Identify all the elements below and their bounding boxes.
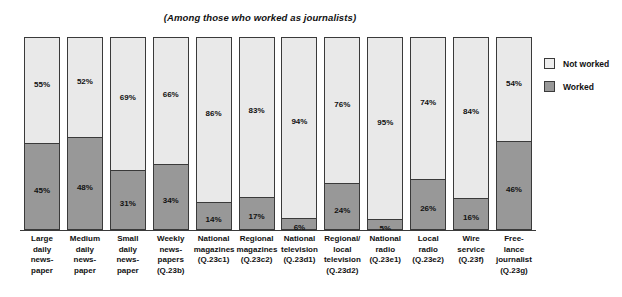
bar-segment-not-worked: 54% — [497, 38, 531, 141]
x-axis-label: Mediumdailynews-paper — [65, 234, 105, 276]
x-axis-label-line: papers — [151, 255, 191, 266]
bar-column: 66%34% — [153, 37, 189, 230]
legend-swatch-icon — [544, 58, 555, 69]
bar-segment-label: 5% — [379, 225, 391, 233]
x-axis-label-line: paper — [65, 266, 105, 277]
x-axis-label-line: (Q.23f) — [451, 255, 491, 266]
bar-segment-label: 52% — [77, 78, 93, 86]
bar-segment-label: 16% — [463, 214, 479, 222]
x-axis-label: Nationalmagazines(Q.23c1) — [194, 234, 234, 266]
bar-segment-not-worked: 84% — [454, 38, 488, 198]
x-axis-label-line: daily — [22, 245, 62, 256]
bar-segment-label: 95% — [377, 119, 393, 127]
x-axis-label-line: (Q.23e2) — [408, 255, 448, 266]
bar-segment-label: 17% — [249, 213, 265, 221]
bar-column: 84%16% — [453, 37, 489, 230]
x-axis-label-line: paper — [108, 266, 148, 277]
bar-segment-worked: 14% — [197, 202, 231, 229]
bar-column: 54%46% — [496, 37, 532, 230]
x-axis-label: Nationaltelevision(Q.23d1) — [279, 234, 319, 266]
bar-segment-label: 66% — [163, 91, 179, 99]
bar-segment-not-worked: 52% — [68, 38, 102, 137]
bar-segment-worked: 24% — [325, 183, 359, 229]
bar-column: 55%45% — [24, 37, 60, 230]
bar-segment-label: 14% — [206, 216, 222, 224]
bar-segment-label: 54% — [506, 80, 522, 88]
bar-segment-worked: 17% — [240, 197, 274, 229]
x-axis-label-line: daily — [108, 245, 148, 256]
x-axis-label-line: Wire — [451, 234, 491, 245]
x-axis-label-line: news- — [22, 255, 62, 266]
bar-segment-label: 26% — [420, 205, 436, 213]
x-axis-label: Free-lancejournalist(Q.23g) — [494, 234, 534, 276]
x-axis-labels: Largedailynews-paperMediumdailynews-pape… — [24, 234, 532, 276]
x-axis-label: Nationalradio(Q.23e1) — [365, 234, 405, 266]
x-axis-label-line: television — [322, 255, 362, 266]
x-axis-label-line: (Q.23g) — [494, 266, 534, 277]
x-axis-label-line: news- — [151, 245, 191, 256]
plot-area: 55%45%52%48%69%31%66%34%86%14%83%17%94%6… — [24, 37, 532, 230]
bar-segment-worked: 26% — [411, 179, 445, 229]
chart-legend: Not workedWorked — [544, 58, 622, 104]
x-axis-label-line: (Q.23d1) — [279, 255, 319, 266]
bar-segment-worked: 46% — [497, 141, 531, 229]
x-axis-label: Weeklynews-papers(Q.23b) — [151, 234, 191, 276]
x-axis-label-line: National — [279, 234, 319, 245]
bar-column: 52%48% — [67, 37, 103, 230]
x-axis-label-line: Free- — [494, 234, 534, 245]
x-axis-label-line: Regional — [237, 234, 277, 245]
bar-segment-not-worked: 95% — [368, 38, 402, 219]
x-axis-label-line: local — [322, 245, 362, 256]
x-axis-label-line: daily — [65, 245, 105, 256]
x-axis-label-line: Local — [408, 234, 448, 245]
bar-segment-worked: 45% — [25, 143, 59, 229]
legend-item: Not worked — [544, 58, 622, 69]
bar-segment-label: 46% — [506, 186, 522, 194]
x-axis-label-line: radio — [408, 245, 448, 256]
bar-column: 69%31% — [110, 37, 146, 230]
bar-segment-label: 31% — [120, 200, 136, 208]
x-axis-label-line: National — [365, 234, 405, 245]
x-axis-label-line: service — [451, 245, 491, 256]
x-axis-label-line: (Q.23c2) — [237, 255, 277, 266]
x-axis-label-line: radio — [365, 245, 405, 256]
bar-segment-not-worked: 94% — [282, 38, 316, 218]
bar-segment-label: 69% — [120, 94, 136, 102]
x-axis-label-line: journalist — [494, 255, 534, 266]
bar-column: 94%6% — [281, 37, 317, 230]
legend-swatch-icon — [544, 81, 555, 92]
bar-segment-worked: 48% — [68, 137, 102, 229]
bar-segment-label: 48% — [77, 184, 93, 192]
legend-label: Not worked — [563, 59, 609, 69]
bar-segment-label: 86% — [206, 110, 222, 118]
bar-segment-worked: 6% — [282, 218, 316, 229]
x-axis-label-line: magazines — [237, 245, 277, 256]
x-axis-label-line: magazines — [194, 245, 234, 256]
stacked-bar-chart: (Among those who worked as journalists) … — [0, 0, 622, 297]
bar-segment-not-worked: 83% — [240, 38, 274, 197]
x-axis-label-line: news- — [65, 255, 105, 266]
bar-segment-worked: 5% — [368, 219, 402, 229]
x-axis-label-line: Large — [22, 234, 62, 245]
bar-segment-worked: 16% — [454, 198, 488, 229]
x-axis-label: Localradio(Q.23e2) — [408, 234, 448, 266]
x-axis-label-line: National — [194, 234, 234, 245]
x-axis-label-line: (Q.23d2) — [322, 266, 362, 277]
bar-segment-label: 83% — [249, 107, 265, 115]
x-axis-label: Wireservice(Q.23f) — [451, 234, 491, 266]
legend-item: Worked — [544, 81, 622, 92]
bar-segment-not-worked: 66% — [154, 38, 188, 164]
bar-segment-not-worked: 86% — [197, 38, 231, 202]
bar-column: 95%5% — [367, 37, 403, 230]
bar-segment-worked: 31% — [111, 170, 145, 229]
bar-segment-not-worked: 69% — [111, 38, 145, 170]
bar-column: 86%14% — [196, 37, 232, 230]
bar-column: 74%26% — [410, 37, 446, 230]
bar-column: 83%17% — [239, 37, 275, 230]
x-axis-label-line: news- — [108, 255, 148, 266]
x-axis-label-line: (Q.23b) — [151, 266, 191, 277]
legend-label: Worked — [563, 82, 594, 92]
x-axis-label-line: television — [279, 245, 319, 256]
bar-column: 76%24% — [324, 37, 360, 230]
x-axis-label-line: paper — [22, 266, 62, 277]
